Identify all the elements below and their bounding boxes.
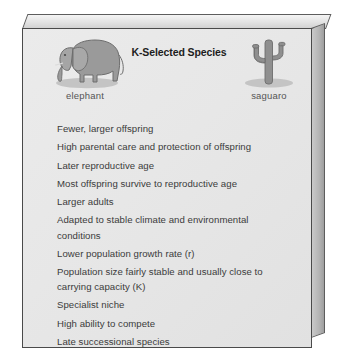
list-item: High ability to compete xyxy=(57,316,293,331)
list-item: Fewer, larger offspring xyxy=(57,121,293,136)
elephant-icon xyxy=(37,33,133,91)
trait-list: Fewer, larger offspring High parental ca… xyxy=(57,121,293,352)
list-item: Population size fairly stable and usuall… xyxy=(57,264,293,294)
list-item: Most offspring survive to reproductive a… xyxy=(57,176,293,191)
figure-label-elephant: elephant xyxy=(37,90,133,101)
list-item: Larger adults xyxy=(57,194,293,209)
list-item: Lower population growth rate (r) xyxy=(57,246,293,261)
panel-bevel-top xyxy=(22,14,331,29)
list-item: Specialist niche xyxy=(57,297,293,312)
figure-label-saguaro: saguaro xyxy=(221,90,317,101)
list-item: High parental care and protection of off… xyxy=(57,139,293,154)
page-title: K-Selected Species xyxy=(127,46,231,58)
figure-saguaro: saguaro xyxy=(221,33,317,101)
list-item: Later reproductive age xyxy=(57,158,293,173)
figure-row: elephant saguaro K-Selected Spec xyxy=(23,29,311,117)
list-item: Late successional species xyxy=(57,334,293,349)
k-selected-species-panel: elephant saguaro K-Selected Spec xyxy=(0,0,340,361)
saguaro-cactus-icon xyxy=(221,33,317,91)
list-item: Adapted to stable climate and environmen… xyxy=(57,212,293,242)
figure-elephant: elephant xyxy=(37,33,133,101)
panel-face: elephant saguaro K-Selected Spec xyxy=(22,28,312,348)
